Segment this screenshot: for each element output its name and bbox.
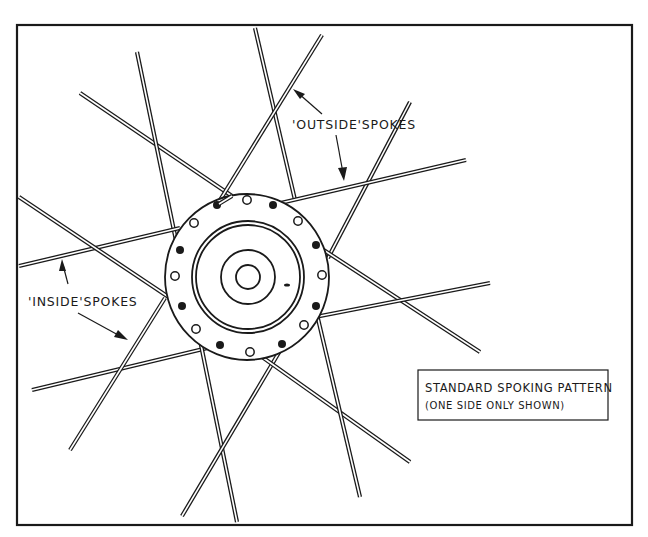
inside-spokes-callout: 'INSIDE'SPOKES [28, 259, 138, 340]
spoke [137, 52, 178, 250]
inside-spokes-label: 'INSIDE'SPOKES [28, 294, 138, 309]
spoke [32, 345, 220, 390]
caption-line-2: (ONE SIDE ONLY SHOWN) [425, 400, 565, 411]
hub [165, 194, 329, 360]
caption-line-1: STANDARD SPOKING PATTERN [425, 381, 613, 395]
outside-spokes-callout: 'OUTSIDE'SPOKES [292, 89, 416, 181]
spoke [70, 298, 165, 450]
outside-spokes-label: 'OUTSIDE'SPOKES [292, 117, 416, 132]
spoke [19, 197, 182, 306]
spoke [255, 352, 410, 462]
spoke [19, 228, 180, 266]
spoke [182, 344, 284, 516]
spoke [272, 160, 466, 205]
hub-mark [284, 283, 290, 286]
caption-box: STANDARD SPOKING PATTERN (ONE SIDE ONLY … [418, 370, 613, 420]
spoking-diagram: 'OUTSIDE'SPOKES 'INSIDE'SPOKES STANDARD … [0, 0, 648, 537]
spoke [310, 283, 490, 318]
spoke [316, 245, 480, 352]
